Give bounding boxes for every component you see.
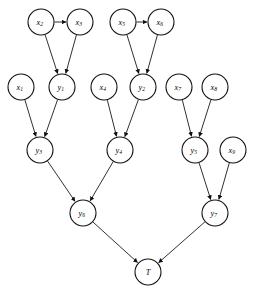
edge-x4-to-y4 [107, 100, 116, 136]
node-x3[interactable]: x3 [67, 9, 93, 35]
node-x1[interactable]: x1 [8, 74, 34, 100]
node-y3[interactable]: y3 [27, 137, 53, 163]
node-y5[interactable]: y5 [182, 137, 208, 163]
node-T[interactable]: T [135, 259, 161, 285]
dag-diagram: x2x3x5x6x1y1x4y2x7x8y3y4y5x9y6y7T [0, 0, 257, 299]
node-x6[interactable]: x6 [148, 9, 174, 35]
edge-x1-to-y3 [25, 100, 36, 136]
node-y2[interactable]: y2 [130, 74, 156, 100]
node-y6[interactable]: y6 [70, 200, 96, 226]
node-x2[interactable]: x2 [28, 9, 54, 35]
node-x8[interactable]: x8 [202, 74, 228, 100]
node-y7[interactable]: y7 [202, 200, 228, 226]
node-y1[interactable]: y1 [49, 74, 75, 100]
node-x5[interactable]: x5 [110, 9, 136, 35]
edge-y1-to-y3 [45, 100, 58, 137]
nodes-layer: x2x3x5x6x1y1x4y2x7x8y3y4y5x9y6y7T [8, 9, 246, 285]
edge-x6-to-y2 [147, 35, 158, 73]
edge-y2-to-y4 [125, 100, 138, 137]
edge-x5-to-y2 [127, 35, 139, 74]
edge-y5-to-y7 [199, 163, 211, 200]
dag-canvas: x2x3x5x6x1y1x4y2x7x8y3y4y5x9y6y7T [0, 0, 257, 299]
edge-y4-to-y6 [90, 162, 113, 201]
edge-x7-to-y5 [182, 100, 191, 136]
edge-x3-to-y1 [66, 35, 77, 73]
node-x9[interactable]: x9 [220, 137, 246, 163]
edge-y3-to-y6 [48, 161, 75, 201]
edge-x9-to-y7 [219, 163, 229, 199]
node-x4[interactable]: x4 [91, 74, 117, 100]
node-x7[interactable]: x7 [166, 74, 192, 100]
edge-x8-to-y5 [199, 100, 211, 137]
edge-y7-to-T [159, 222, 205, 263]
edge-y6-to-T [93, 222, 137, 262]
edge-x2-to-y1 [45, 35, 57, 74]
node-y4[interactable]: y4 [107, 137, 133, 163]
